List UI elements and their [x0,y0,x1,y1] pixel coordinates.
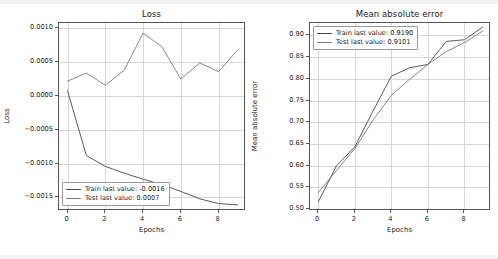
y-tick-mark [306,56,309,57]
y-tick-mark [55,196,58,197]
x-tick-mark [463,210,464,213]
y-tick-mark [55,95,58,96]
loss-x-axis-label: Epochs [58,226,245,234]
mae-x-axis-label: Epochs [309,226,490,234]
y-tick-label: 0.90 [267,30,304,38]
y-tick-label: 0.55 [267,182,304,190]
series-line-train [318,27,483,202]
x-tick-mark [180,210,181,213]
legend-color-swatch [317,42,332,44]
chart-legend[interactable]: Train last value: -0.0016Test last value… [62,182,170,206]
x-tick-mark [218,210,219,213]
matplotlib-figure: Loss Epochs Loss 0.00100.00050.0000−0.00… [0,0,498,259]
y-tick-label: 0.0005 [16,57,53,65]
x-tick-label: 0 [57,215,77,223]
y-tick-mark [55,27,58,28]
y-tick-mark [55,163,58,164]
legend-item: Train last value: -0.0016 [66,185,165,194]
loss-chart-title: Loss [58,9,245,19]
x-tick-mark [427,210,428,213]
x-tick-label: 6 [417,215,437,223]
y-tick-mark [306,186,309,187]
loss-chart-panel: Loss Epochs Loss 0.00100.00050.0000−0.00… [0,0,249,259]
y-tick-label: −0.0005 [16,125,53,133]
series-line-test [318,31,483,193]
y-tick-mark [306,165,309,166]
mae-plot-area [309,22,490,210]
legend-item: Test last value: 0.9101 [317,38,413,47]
loss-y-axis-label: Loss [3,108,11,123]
series-layer [310,23,490,210]
legend-color-swatch [317,33,332,35]
x-tick-mark [104,210,105,213]
legend-label: Train last value: -0.0016 [85,185,165,194]
x-tick-label: 0 [307,215,327,223]
y-tick-label: 0.0010 [16,23,53,31]
mae-chart-panel: Mean absolute error Epochs Mean absolute… [249,0,498,259]
grid-line-horizontal [310,209,489,210]
y-tick-mark [306,100,309,101]
y-tick-mark [306,78,309,79]
y-tick-label: 0.65 [267,139,304,147]
x-tick-label: 4 [132,215,152,223]
legend-item: Test last value: 0.0007 [66,194,165,203]
x-tick-label: 2 [344,215,364,223]
x-tick-label: 6 [170,215,190,223]
y-tick-mark [55,129,58,130]
x-tick-mark [142,210,143,213]
y-tick-label: 0.0000 [16,91,53,99]
x-tick-mark [317,210,318,213]
x-tick-label: 4 [380,215,400,223]
y-tick-label: 0.60 [267,161,304,169]
y-tick-label: 0.70 [267,117,304,125]
y-tick-label: 0.80 [267,74,304,82]
mae-chart-title: Mean absolute error [309,9,490,19]
y-tick-mark [306,121,309,122]
y-tick-label: 0.75 [267,96,304,104]
y-tick-label: −0.0015 [16,192,53,200]
x-tick-label: 2 [94,215,114,223]
x-tick-mark [67,210,68,213]
y-tick-mark [306,34,309,35]
x-tick-mark [390,210,391,213]
y-tick-mark [55,61,58,62]
series-line-test [68,33,238,85]
y-tick-mark [306,143,309,144]
legend-color-swatch [66,198,81,200]
y-tick-mark [306,208,309,209]
legend-label: Test last value: 0.0007 [85,194,159,203]
legend-item: Train last value: 0.9190 [317,29,413,38]
mae-y-axis-label: Mean absolute error [251,81,259,152]
x-tick-label: 8 [208,215,228,223]
legend-label: Test last value: 0.9101 [336,38,410,47]
y-tick-label: 0.85 [267,52,304,60]
chart-legend[interactable]: Train last value: 0.9190Test last value:… [313,26,418,50]
x-tick-mark [354,210,355,213]
y-tick-label: 0.50 [267,204,304,212]
x-tick-label: 8 [453,215,473,223]
legend-color-swatch [66,189,81,191]
y-tick-label: −0.0010 [16,159,53,167]
legend-label: Train last value: 0.9190 [336,29,413,38]
